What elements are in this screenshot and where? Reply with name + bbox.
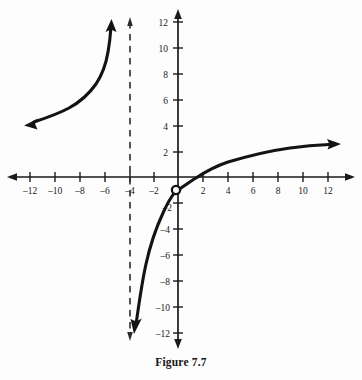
y-tick-label--12: –12 — [155, 329, 171, 339]
y-tick-label-12: 12 — [159, 18, 169, 28]
y-tick-label-8: 8 — [163, 70, 168, 80]
open-circle-point — [172, 186, 180, 194]
x-tick-label-4: 4 — [226, 186, 231, 196]
curve-left-branch — [24, 19, 117, 130]
asymptote-arrow-down — [127, 332, 133, 341]
coordinate-plot: –12 –10 –8 –6 –4 –2 2 4 6 8 10 12 — [0, 0, 362, 356]
y-tick-label-10: 10 — [159, 44, 169, 54]
left-branch-arrowhead-left — [24, 119, 38, 130]
y-tick-label-4: 4 — [163, 122, 168, 132]
y-tick-label--6: –6 — [160, 251, 171, 261]
y-axis-arrow-down — [174, 339, 182, 349]
left-branch-path — [34, 29, 111, 122]
figure-container: –12 –10 –8 –6 –4 –2 2 4 6 8 10 12 — [0, 0, 362, 380]
figure-caption: Figure 7.7 — [0, 356, 362, 368]
asymptote-arrow-up — [127, 17, 133, 26]
x-tick-label--12: –12 — [22, 186, 38, 196]
x-tick-label-10: 10 — [298, 186, 308, 196]
x-axis-arrow-left — [7, 173, 17, 181]
vertical-asymptote-line — [127, 17, 133, 341]
x-tick-label-12: 12 — [323, 186, 333, 196]
y-tick-label--8: –8 — [160, 277, 171, 287]
y-tick-label--10: –10 — [155, 303, 171, 313]
x-tick-label-8: 8 — [276, 186, 281, 196]
y-tick-label--4: –4 — [160, 225, 171, 235]
x-axis-arrow-right — [345, 173, 355, 181]
y-axis-tick-labels: 12 10 8 6 4 2 –2 –4 –6 –8 –10 –12 — [155, 18, 173, 339]
x-tick-label--6: –6 — [99, 186, 110, 196]
y-tick-label-6: 6 — [163, 96, 168, 106]
x-tick-label--10: –10 — [47, 186, 63, 196]
x-tick-label-6: 6 — [251, 186, 256, 196]
x-tick-label--8: –8 — [74, 186, 85, 196]
y-axis-arrow-up — [174, 9, 182, 19]
x-tick-label--2: –2 — [148, 186, 159, 196]
x-tick-label-2: 2 — [201, 186, 206, 196]
y-tick-label-2: 2 — [163, 148, 168, 158]
